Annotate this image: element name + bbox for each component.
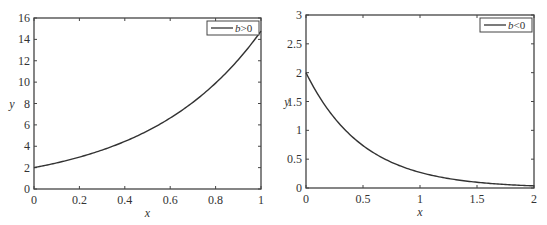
- y-tick-label: 8: [24, 97, 30, 111]
- y-tick-label: 6: [24, 118, 30, 132]
- y-tick-label: 2: [24, 161, 30, 175]
- plot-frame: [306, 15, 534, 188]
- legend-label: b<0: [508, 19, 526, 31]
- chart-2: 00.511.5200.511.522.53xyb<0: [283, 8, 537, 219]
- y-tick-label: 2.5: [287, 37, 302, 51]
- x-axis-label: x: [144, 206, 151, 220]
- x-tick-label: 2: [531, 192, 537, 206]
- x-tick-label: 0.8: [208, 193, 223, 207]
- x-tick-label: 0: [303, 192, 309, 206]
- y-tick-label: 0: [24, 182, 30, 196]
- y-tick-label: 0.5: [287, 152, 302, 166]
- plot-frame: [34, 18, 261, 189]
- x-tick-label: 1: [417, 192, 423, 206]
- x-axis-label: x: [416, 205, 423, 219]
- x-tick-label: 0.6: [163, 193, 178, 207]
- x-tick-label: 0.2: [72, 193, 87, 207]
- y-tick-label: 12: [18, 54, 30, 68]
- y-tick-label: 3: [296, 8, 302, 22]
- chart-1: 00.20.40.60.810246810121416xyb>0: [8, 11, 264, 220]
- y-tick-label: 10: [18, 75, 30, 89]
- y-tick-label: 16: [18, 11, 30, 25]
- figure: 00.20.40.60.810246810121416xyb>000.511.5…: [0, 0, 547, 225]
- y-tick-label: 1: [296, 123, 302, 137]
- y-axis-label: y: [8, 97, 15, 111]
- legend-label: b>0: [235, 22, 253, 34]
- x-tick-label: 0.5: [356, 192, 371, 206]
- y-tick-label: 2: [296, 66, 302, 80]
- x-tick-label: 0.4: [117, 193, 132, 207]
- y-tick-label: 4: [24, 139, 30, 153]
- y-axis-label: y: [283, 95, 290, 109]
- x-tick-label: 1.5: [470, 192, 485, 206]
- y-tick-label: 14: [18, 32, 30, 46]
- series-line: [34, 31, 261, 168]
- x-tick-label: 1: [258, 193, 264, 207]
- series-line: [306, 73, 534, 186]
- x-tick-label: 0: [31, 193, 37, 207]
- y-tick-label: 0: [296, 181, 302, 195]
